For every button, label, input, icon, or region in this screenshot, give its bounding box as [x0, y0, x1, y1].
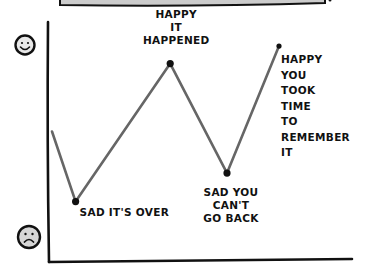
annotation-line: HAPPY	[281, 53, 323, 65]
annotation-line: TOOK	[281, 84, 316, 96]
happy-face-icon	[16, 36, 35, 55]
annotation-line: HAPPY	[155, 8, 197, 20]
data-point-3	[223, 170, 230, 177]
point-annotation-2: HAPPYITHAPPENED	[143, 8, 210, 46]
data-point-1	[72, 198, 79, 205]
x-axis	[49, 259, 352, 262]
annotation-line: IT	[170, 21, 182, 33]
annotation-line: YOU	[280, 69, 307, 81]
point-annotation-3: SAD YOUCAN'TGO BACK	[203, 186, 259, 224]
data-point-2	[167, 60, 174, 67]
annotation-line: CAN'T	[213, 199, 250, 211]
annotation-line: TO	[281, 115, 298, 127]
point-annotation-4: HAPPYYOUTOOKTIMETOREMEMBERIT	[280, 53, 350, 158]
annotation-line: SAD IT'S OVER	[80, 206, 170, 218]
y-axis	[48, 22, 49, 262]
annotation-line: HAPPENED	[143, 34, 210, 46]
annotation-line: IT	[281, 146, 293, 158]
annotation-line: GO BACK	[203, 212, 259, 224]
point-annotation-1: SAD IT'S OVER	[80, 206, 170, 218]
top-box-dot	[329, 0, 332, 2]
annotation-line: SAD YOU	[204, 186, 259, 198]
chart: SAD IT'S OVERHAPPYITHAPPENEDSAD YOUCAN'T…	[0, 0, 368, 270]
data-point-4	[276, 44, 281, 49]
series-line-feeling	[52, 46, 279, 202]
sad-face-icon	[18, 226, 40, 248]
top-box	[60, 0, 325, 6]
annotation-line: REMEMBER	[281, 131, 350, 143]
annotation-line: TIME	[281, 100, 311, 112]
